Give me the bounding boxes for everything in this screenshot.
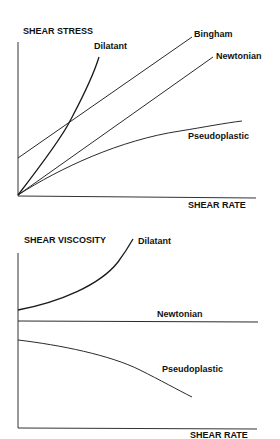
top-bingham-curve (18, 37, 192, 158)
top-x-axis (18, 196, 256, 198)
top-newtonian-label: Newtonian (216, 51, 262, 61)
bottom-newtonian-label: Newtonian (157, 309, 203, 319)
shear-viscosity-chart (18, 239, 258, 429)
shear-stress-chart (18, 37, 256, 198)
bottom-x-axis-title: SHEAR RATE (190, 430, 248, 439)
rheology-diagram (0, 0, 280, 439)
bottom-y-axis-title: SHEAR VISCOSITY (24, 235, 106, 245)
top-x-axis-title: SHEAR RATE (188, 200, 246, 210)
top-bingham-label: Bingham (194, 29, 233, 39)
top-dilatant-label: Dilatant (94, 41, 127, 51)
bottom-dilatant-label: Dilatant (138, 236, 171, 246)
bottom-pseudoplastic-label: Pseudoplastic (162, 364, 223, 374)
top-y-axis-title: SHEAR STRESS (23, 26, 93, 36)
bottom-x-axis (18, 428, 257, 429)
bottom-newtonian-curve (18, 321, 258, 322)
top-newtonian-curve (18, 57, 213, 195)
top-dilatant-curve (18, 57, 99, 195)
bottom-dilatant-curve (18, 239, 133, 310)
top-pseudoplastic-label: Pseudoplastic (188, 131, 249, 141)
